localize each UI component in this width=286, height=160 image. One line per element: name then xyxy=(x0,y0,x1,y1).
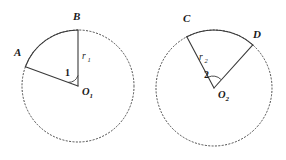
left-arc-ab xyxy=(25,30,78,67)
right-radius-to-c xyxy=(187,37,214,88)
left-radius-label: r xyxy=(82,51,86,61)
right-arc-cd xyxy=(187,30,253,45)
left-radius-subscript: 1 xyxy=(88,56,91,63)
left-circle-group: A B r 1 1 O 1 xyxy=(13,10,134,142)
geometry-diagram: A B r 1 1 O 1 C D xyxy=(0,0,286,160)
left-angle-label: 1 xyxy=(65,67,70,78)
right-radius-label: r xyxy=(199,52,203,62)
point-label-d: D xyxy=(252,28,261,40)
point-label-a: A xyxy=(13,46,21,58)
left-center-subscript: 1 xyxy=(90,92,94,100)
point-label-b: B xyxy=(72,10,80,22)
right-angle-label: 2 xyxy=(204,69,209,80)
point-label-c: C xyxy=(183,12,191,24)
right-radius-to-d xyxy=(214,45,253,88)
diagram-canvas: A B r 1 1 O 1 C D xyxy=(0,0,286,160)
right-center-subscript: 2 xyxy=(225,95,230,103)
right-angle-arc-marker xyxy=(208,76,221,79)
right-circle-group: C D r 2 2 O 2 xyxy=(156,12,272,146)
left-radius-to-a xyxy=(25,67,78,86)
right-radius-subscript: 2 xyxy=(205,57,209,64)
